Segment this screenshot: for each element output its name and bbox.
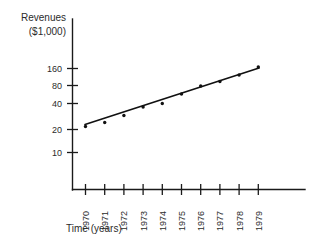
y-axis-title-line2: ($1,000) bbox=[29, 26, 66, 37]
data-point-1974 bbox=[161, 102, 164, 105]
y-axis-title-line1: Revenues bbox=[21, 12, 66, 23]
x-tick-label-1973: 1973 bbox=[139, 211, 149, 231]
x-tick-label-1976: 1976 bbox=[196, 211, 206, 231]
x-axis-title: Time (years) bbox=[66, 223, 122, 234]
trend-line bbox=[85, 68, 259, 125]
data-point-1975 bbox=[180, 92, 183, 95]
y-tick-label-80: 80 bbox=[52, 81, 62, 91]
y-tick-label-10: 10 bbox=[52, 148, 62, 158]
data-point-1971 bbox=[103, 121, 106, 124]
x-tick-label-1974: 1974 bbox=[158, 211, 168, 231]
y-tick-label-40: 40 bbox=[52, 99, 62, 109]
x-tick-label-1977: 1977 bbox=[215, 211, 225, 231]
data-point-1972 bbox=[122, 114, 125, 117]
data-point-1976 bbox=[199, 84, 202, 87]
revenues-vs-time-chart: Revenues ($1,000) 160 80 40 20 10 bbox=[0, 0, 320, 238]
data-point-1978 bbox=[237, 73, 240, 76]
data-point-1973 bbox=[141, 105, 144, 108]
data-point-1979 bbox=[257, 65, 260, 68]
x-tick-label-1979: 1979 bbox=[254, 211, 264, 231]
data-point-1977 bbox=[218, 80, 221, 83]
x-tick-label-1975: 1975 bbox=[177, 211, 187, 231]
y-tick-label-20: 20 bbox=[52, 125, 62, 135]
y-tick-label-160: 160 bbox=[47, 64, 62, 74]
x-tick-label-1978: 1978 bbox=[235, 211, 245, 231]
chart-figure: Revenues ($1,000) 160 80 40 20 10 bbox=[0, 0, 320, 238]
data-point-1970 bbox=[84, 125, 87, 128]
